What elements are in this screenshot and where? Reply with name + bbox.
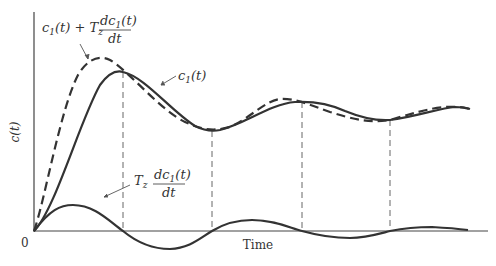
svg-text:dc1(t): dc1(t) <box>100 13 137 30</box>
dashed-curve-c1-plus-derivative <box>34 58 470 231</box>
svg-text:c1(t): c1(t) <box>178 68 206 85</box>
svg-text:dc1(t): dc1(t) <box>154 167 191 184</box>
label-c1: c1(t) <box>178 68 206 85</box>
x-axis-label: Time <box>243 238 273 252</box>
origin-label: 0 <box>21 236 29 250</box>
svg-text:dt: dt <box>108 31 122 46</box>
label-derivative: Tz dc1(t) dt <box>134 167 191 200</box>
svg-text:dt: dt <box>162 185 176 200</box>
solid-curve-c1 <box>34 72 470 231</box>
vertical-guides <box>123 72 390 231</box>
y-axis-label: c(t) <box>8 121 22 142</box>
step-response-diagram: c1(t) + Tz dc1(t) dt c1(t) Tz dc1(t) dt … <box>0 0 496 266</box>
svg-text:Tz: Tz <box>134 173 148 190</box>
svg-text:c1(t) + Tz: c1(t) + Tz <box>42 20 103 37</box>
label-c1-plus-derivative: c1(t) + Tz dc1(t) dt <box>42 13 137 46</box>
